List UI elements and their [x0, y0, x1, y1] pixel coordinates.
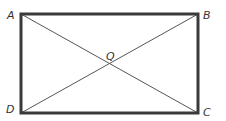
- intersection-label-q: Q: [106, 50, 115, 63]
- vertex-label-c: C: [203, 106, 211, 119]
- rectangle-diagram: A B C D Q: [0, 0, 226, 121]
- vertex-label-d: D: [6, 103, 14, 116]
- vertex-label-a: A: [6, 9, 15, 22]
- vertex-label-b: B: [203, 9, 211, 22]
